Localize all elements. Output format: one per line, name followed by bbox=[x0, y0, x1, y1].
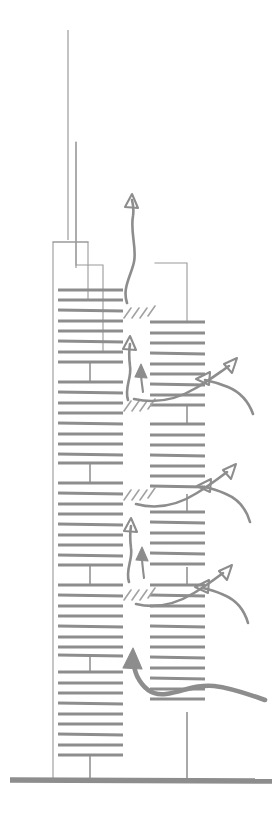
ground-level-intake-arrow bbox=[123, 648, 265, 700]
hatch-stroke bbox=[140, 590, 147, 600]
cross-flow-intake-upper-arrow bbox=[196, 372, 253, 414]
hatch-stroke bbox=[132, 590, 139, 600]
hatch-stroke bbox=[148, 306, 155, 316]
flow-path bbox=[205, 380, 253, 414]
flow-path bbox=[126, 200, 135, 303]
main-tower-body-outline bbox=[53, 242, 88, 780]
floor-slab bbox=[58, 454, 123, 455]
stack-riser-middle-arrow bbox=[124, 518, 137, 582]
floor-slab bbox=[58, 703, 123, 704]
arrowhead-up-right-icon bbox=[223, 464, 236, 479]
hatch-group bbox=[124, 588, 155, 600]
hatch-stroke bbox=[140, 401, 147, 411]
secondary-tower-floor-slabs bbox=[150, 322, 205, 780]
stack-riser-upper-small-arrow bbox=[135, 364, 147, 392]
hatch-stroke bbox=[124, 590, 131, 600]
floor-slab bbox=[150, 455, 205, 456]
floor-slab bbox=[150, 522, 205, 523]
arrowhead-up-right-icon bbox=[224, 358, 237, 373]
exhaust-plume-top-arrow bbox=[125, 194, 138, 303]
hatch-stroke bbox=[132, 490, 139, 500]
diagram-canvas bbox=[0, 0, 276, 820]
airflow-arrows bbox=[123, 194, 265, 700]
floor-slab bbox=[58, 392, 123, 393]
stack-riser-upper-arrow bbox=[123, 336, 136, 400]
floor-slab bbox=[150, 353, 205, 354]
floor-slab bbox=[58, 626, 123, 627]
hatch-stroke bbox=[124, 308, 131, 318]
arrowhead-up-right-icon bbox=[219, 565, 232, 580]
hatch-stroke bbox=[132, 308, 139, 318]
floor-slab bbox=[58, 423, 123, 424]
stack-riser-middle-small-arrow bbox=[136, 547, 148, 578]
floor-slab bbox=[58, 595, 123, 596]
arrowhead-up-left-icon bbox=[123, 648, 142, 669]
ventilation-section-diagram bbox=[0, 0, 276, 820]
hatch-stroke bbox=[148, 488, 155, 498]
hatch-stroke bbox=[140, 308, 147, 318]
arrowhead-up-icon bbox=[135, 364, 147, 378]
main-tower-floor-slabs bbox=[58, 290, 123, 780]
hatch-group bbox=[124, 306, 155, 318]
secondary-tower-outline bbox=[155, 263, 187, 322]
floor-slab bbox=[58, 493, 123, 494]
floor-slab bbox=[58, 734, 123, 735]
roof-spire-group bbox=[68, 30, 76, 268]
hatch-group bbox=[124, 488, 155, 500]
flow-path bbox=[205, 487, 250, 522]
secondary-tower-top-edge bbox=[155, 263, 187, 322]
ground-line bbox=[10, 780, 272, 781]
floor-slab bbox=[58, 341, 123, 342]
hatch-stroke bbox=[140, 490, 147, 500]
floor-slab bbox=[58, 524, 123, 525]
cross-flow-intake-middle-arrow bbox=[197, 479, 250, 522]
flow-path bbox=[127, 344, 130, 400]
flow-path bbox=[203, 588, 248, 623]
floor-slab bbox=[58, 655, 123, 656]
hatch-stroke bbox=[124, 401, 131, 411]
floor-slab bbox=[58, 555, 123, 556]
floor-slab bbox=[58, 310, 123, 311]
floor-slab bbox=[150, 678, 205, 679]
floor-slab bbox=[150, 626, 205, 627]
floor-slab bbox=[150, 595, 205, 596]
arrowhead-up-icon bbox=[136, 547, 148, 561]
floor-slab bbox=[150, 657, 205, 658]
hatch-stroke bbox=[132, 401, 139, 411]
floor-slab bbox=[150, 384, 205, 385]
flow-path bbox=[128, 526, 131, 582]
hatch-stroke bbox=[124, 490, 131, 500]
floor-slab bbox=[150, 553, 205, 554]
